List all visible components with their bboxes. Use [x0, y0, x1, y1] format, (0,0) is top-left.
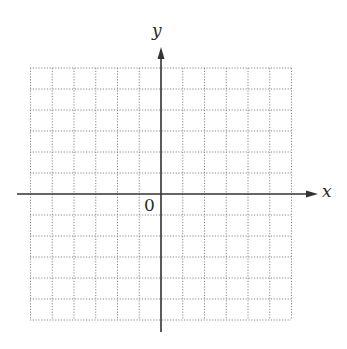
x-axis-label: x — [322, 183, 332, 200]
origin-label: 0 — [144, 197, 155, 214]
grid-svg — [0, 0, 347, 349]
y-axis-arrow-icon — [158, 47, 165, 59]
coordinate-plane: y x 0 — [0, 0, 347, 349]
y-axis-label: y — [152, 22, 162, 39]
x-axis-arrow-icon — [306, 191, 318, 198]
axes — [17, 47, 318, 332]
